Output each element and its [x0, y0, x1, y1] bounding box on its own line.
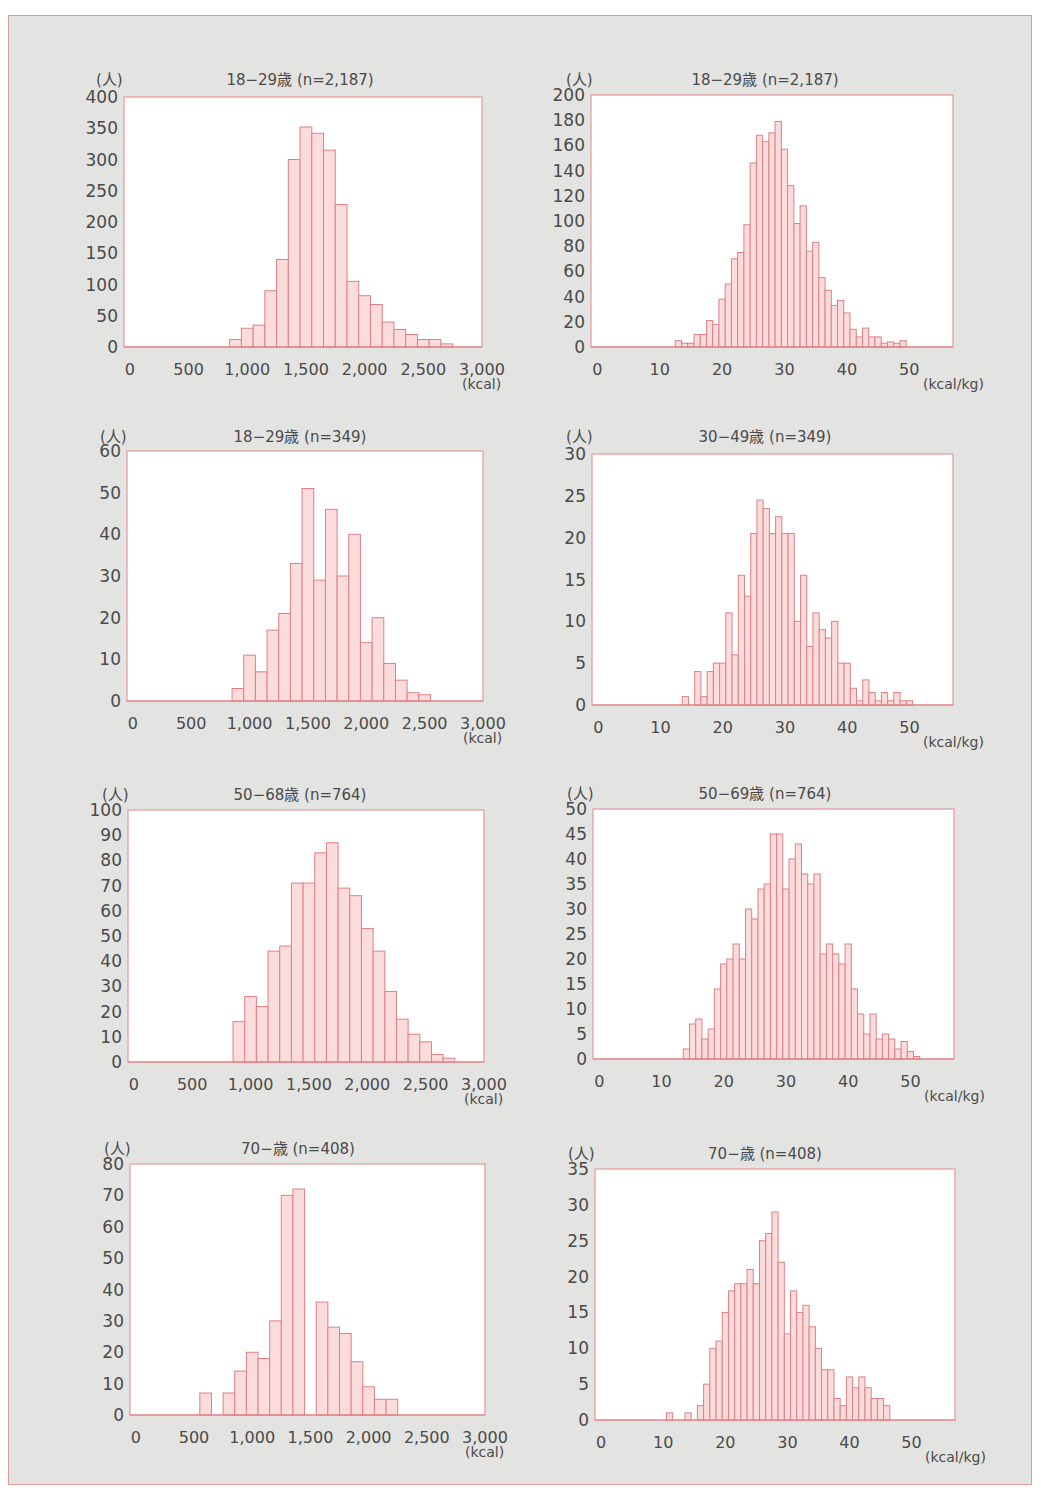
x-tick-label: 50	[901, 1433, 921, 1452]
histogram-bar	[697, 1406, 703, 1420]
histogram-bar	[759, 1241, 765, 1420]
histogram-bar	[741, 1284, 747, 1420]
x-tick-label: 0	[596, 1433, 606, 1452]
y-tick-label: 20	[539, 1268, 589, 1286]
histogram-bar	[772, 1212, 778, 1420]
y-tick-label: 35	[539, 1160, 589, 1178]
histogram-bar	[859, 1377, 865, 1420]
histogram-bar	[716, 1341, 722, 1420]
y-tick-label: 5	[539, 1375, 589, 1393]
histogram-bar	[685, 1413, 691, 1420]
histogram-bar	[871, 1398, 877, 1420]
histogram-bar	[853, 1388, 859, 1420]
x-tick-label: 30	[777, 1433, 797, 1452]
histogram-bar	[822, 1370, 828, 1420]
x-tick-label: 10	[653, 1433, 673, 1452]
histogram-bar	[666, 1413, 672, 1420]
histogram-bar	[784, 1334, 790, 1420]
y-tick-label: 10	[539, 1339, 589, 1357]
y-tick-label: 15	[539, 1303, 589, 1321]
histogram-bar	[803, 1305, 809, 1420]
histogram-bar	[865, 1388, 871, 1420]
x-tick-label: 40	[839, 1433, 859, 1452]
histogram-bar	[778, 1262, 784, 1420]
histogram-bar	[766, 1234, 772, 1420]
histogram-bar	[747, 1269, 753, 1420]
plot-area	[0, 0, 1041, 1494]
y-tick-label: 0	[539, 1411, 589, 1429]
histogram-bar	[846, 1377, 852, 1420]
histogram-bar	[884, 1406, 890, 1420]
histogram-bar	[791, 1291, 797, 1420]
histogram-bar	[834, 1398, 840, 1420]
histogram-bar	[704, 1384, 710, 1420]
x-tick-label: 20	[715, 1433, 735, 1452]
histogram-bar	[735, 1284, 741, 1420]
histogram-bar	[797, 1312, 803, 1420]
histogram-bar	[840, 1406, 846, 1420]
histogram-bar	[828, 1370, 834, 1420]
histogram-bar	[728, 1291, 734, 1420]
y-tick-label: 25	[539, 1232, 589, 1250]
histogram-bar	[809, 1327, 815, 1420]
histogram-bar	[877, 1398, 883, 1420]
histogram-bar	[815, 1348, 821, 1420]
y-tick-label: 30	[539, 1196, 589, 1214]
histogram-bar	[753, 1284, 759, 1420]
histogram-bar	[722, 1312, 728, 1420]
histogram-bar	[710, 1348, 716, 1420]
